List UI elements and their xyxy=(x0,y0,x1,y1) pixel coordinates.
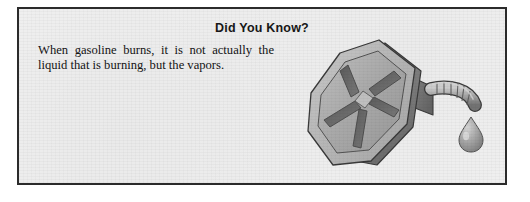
did-you-know-panel: Did You Know? When gasoline burns, it is… xyxy=(17,7,507,185)
fact-body-text: When gasoline burns, it is not actually … xyxy=(38,43,274,72)
fuel-drip xyxy=(459,117,483,152)
can-flexible-spout xyxy=(431,81,475,105)
gasoline-can-illustration xyxy=(293,31,493,183)
page-root: Did You Know? When gasoline burns, it is… xyxy=(0,0,530,202)
